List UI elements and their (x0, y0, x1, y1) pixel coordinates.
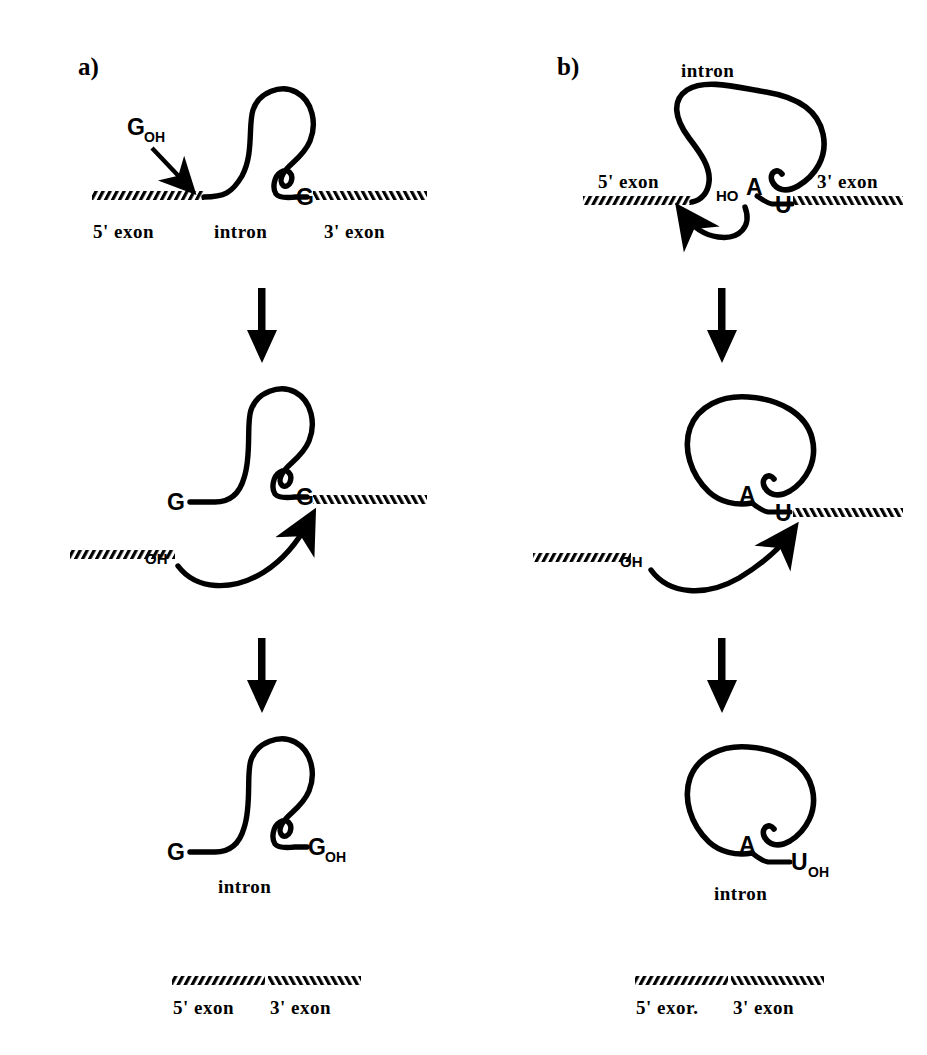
intron-3prime-OH-subscript: OH (325, 849, 346, 865)
branch-HO-label: HO (716, 187, 739, 204)
intron-label-b1: intron (681, 60, 734, 81)
branch-point-A-label: A (746, 174, 763, 200)
step-arrow-a-2 (247, 638, 277, 713)
ligated-five-prime-exon-band-b (635, 976, 728, 985)
stage-b2: OH A U (533, 397, 903, 591)
exon-attack-arrow-b (651, 534, 790, 591)
panel-letter-a: a) (78, 53, 99, 81)
ligated-three-prime-exon-label: 3' exon (270, 997, 331, 1018)
branch-point-A-label-2: A (739, 482, 756, 508)
step-arrow-a-1 (247, 288, 277, 363)
ligated-three-prime-exon-label-b: 3' exon (733, 997, 794, 1018)
intron-5prime-G-label-2: G (167, 489, 185, 515)
ligated-five-prime-exon-band (172, 976, 265, 985)
step-arrow-b-1 (707, 288, 737, 363)
intron-backbone (204, 89, 313, 198)
splicing-mechanism-figure: a) G G OH 5' exon intron 3' exon (0, 0, 927, 1055)
ligated-five-prime-exon-label: 5' exon (173, 997, 234, 1018)
stage-a2: OH G G (70, 389, 427, 586)
free-five-prime-exon-band-b (533, 553, 631, 562)
cofactor-G-label: G (127, 114, 145, 140)
intron-backbone-2 (190, 389, 312, 502)
intron-3prime-G-label-3: G (308, 834, 326, 860)
intron-3prime-OH-subscript-b: OH (808, 864, 829, 880)
intron-5prime-G-label-3: G (167, 839, 185, 865)
five-prime-exon-band-b (583, 196, 691, 205)
intron-label: intron (214, 221, 267, 242)
three-prime-exon-band (313, 191, 427, 200)
branch-point-A-label-3: A (739, 832, 756, 858)
cofactor-OH-subscript: OH (144, 129, 165, 145)
released-intron-label: intron (218, 876, 271, 897)
released-lariat-label: intron (714, 883, 767, 904)
stage-b4: 5' exor. 3' exon (635, 976, 824, 1018)
intron-3prime-G-label-2: G (296, 484, 314, 510)
ligated-three-prime-exon-band-b (731, 976, 824, 985)
stage-b3: A U OH intron (687, 747, 829, 904)
stage-a3: G G OH intron (167, 739, 346, 897)
three-prime-exon-band-b2 (793, 508, 903, 517)
exon-attack-arrow (178, 521, 309, 586)
stage-a1: G G OH 5' exon intron 3' exon (92, 89, 427, 242)
stage-a4: 5' exon 3' exon (172, 976, 361, 1018)
five-prime-exon-label-b: 5' exon (598, 171, 659, 192)
intron-3prime-G-label: G (296, 184, 314, 210)
stage-b1: intron A HO U 5' exon 3' exon (583, 60, 903, 237)
exon-OH-label: OH (145, 550, 168, 567)
step-arrow-b-2 (707, 638, 737, 713)
released-intron-backbone (190, 739, 312, 852)
panel-letter-b: b) (557, 53, 579, 81)
three-prime-exon-band-2 (313, 495, 427, 504)
three-prime-exon-label: 3' exon (324, 221, 385, 242)
three-prime-exon-label-b: 3' exon (817, 171, 878, 192)
intron-3prime-U-label-3: U (791, 849, 808, 875)
five-prime-exon-band (92, 191, 204, 200)
five-prime-exon-label: 5' exon (93, 221, 154, 242)
intron-3prime-U-label: U (775, 192, 792, 218)
cofactor-attack-arrow (152, 148, 188, 186)
ligated-three-prime-exon-band (268, 976, 361, 985)
exon-OH-label-b: OH (620, 553, 643, 570)
intron-3prime-U-label-2: U (775, 500, 792, 526)
three-prime-exon-band-b (793, 196, 903, 205)
branch-link-b3 (752, 853, 790, 862)
branch-attack-arrow (684, 207, 747, 237)
ligated-five-prime-exon-label-b: 5' exor. (636, 997, 698, 1018)
